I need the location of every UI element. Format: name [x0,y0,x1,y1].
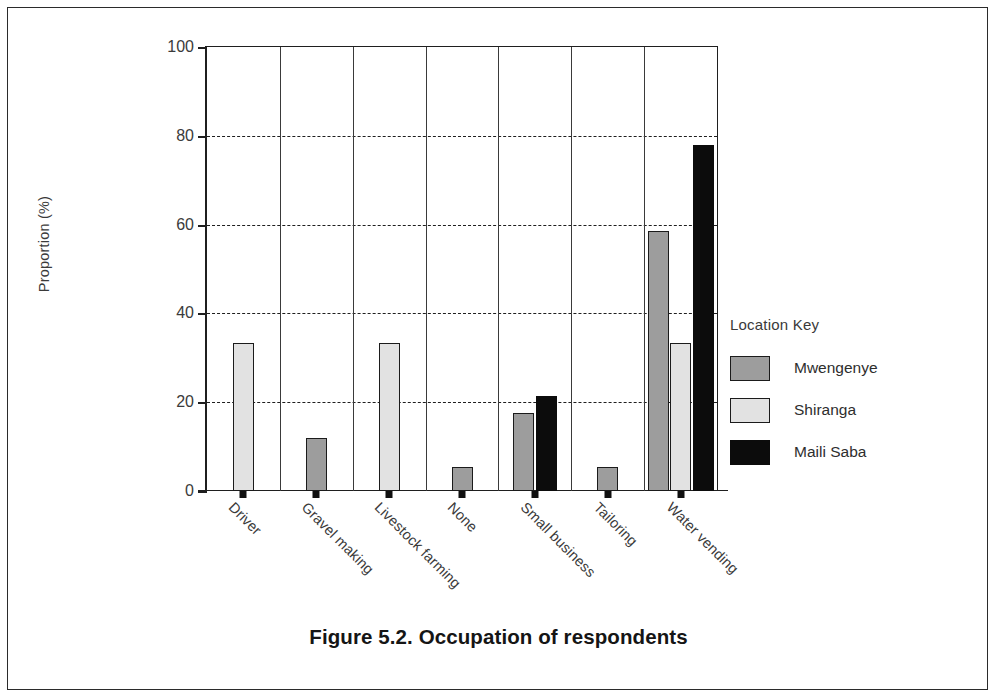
bar [379,343,400,491]
legend-swatch-icon [730,398,770,423]
bar [306,438,327,491]
x-axis-label: Gravel making [299,499,377,577]
x-tick-mark [313,491,320,498]
legend-title: Location Key [730,316,960,333]
category-divider [644,47,645,491]
bar [597,467,618,491]
y-tick-label: 60 [176,216,194,234]
y-tick-mark [198,491,207,493]
y-tick-label: 40 [176,304,194,322]
x-tick-mark [604,491,611,498]
legend-swatch-icon [730,440,770,465]
y-tick-mark [198,47,207,49]
x-axis-label: Driver [226,499,265,538]
y-tick-mark [198,402,207,404]
y-tick-label: 0 [185,482,194,500]
legend-entries: MwengenyeShirangaMaili Saba [730,347,960,473]
x-axis-label: Tailoring [590,499,640,549]
bar [693,145,714,491]
y-tick-label: 80 [176,127,194,145]
category-divider [280,47,281,491]
category-divider [353,47,354,491]
y-tick-mark [198,136,207,138]
category-divider [426,47,427,491]
bar [513,413,534,491]
y-tick-label: 100 [167,38,194,56]
bar-chart: Proportion (%) 020406080100DriverGravel … [8,8,989,691]
bar [670,343,691,491]
gridline [207,313,717,314]
x-tick-mark [386,491,393,498]
bar [233,343,254,491]
legend: Location Key MwengenyeShirangaMaili Saba [730,316,960,473]
x-axis-label: Small business [518,499,599,580]
legend-entry[interactable]: Shiranga [730,389,960,431]
gridline [207,402,717,403]
x-tick-mark [531,491,538,498]
figure-frame: Proportion (%) 020406080100DriverGravel … [7,7,988,690]
legend-entry[interactable]: Maili Saba [730,431,960,473]
y-tick-label: 20 [176,393,194,411]
x-tick-mark [677,491,684,498]
legend-entry-label: Shiranga [794,401,856,419]
plot-area: 020406080100DriverGravel makingLivestock… [205,46,718,491]
figure-caption: Figure 5.2. Occupation of respondents [8,625,989,649]
bar [452,467,473,491]
category-divider [498,47,499,491]
x-tick-mark [240,491,247,498]
y-tick-mark [198,313,207,315]
y-axis-title: Proportion (%) [36,164,52,324]
bar [648,231,669,491]
x-axis-label: Water vending [663,499,741,577]
category-divider [571,47,572,491]
bar [536,396,557,491]
legend-entry-label: Maili Saba [794,443,866,461]
legend-entry-label: Mwengenye [794,359,878,377]
x-axis-label: None [445,499,481,535]
legend-swatch-icon [730,356,770,381]
gridline [207,136,717,137]
y-tick-mark [198,225,207,227]
gridline [207,225,717,226]
legend-entry[interactable]: Mwengenye [730,347,960,389]
x-tick-mark [459,491,466,498]
